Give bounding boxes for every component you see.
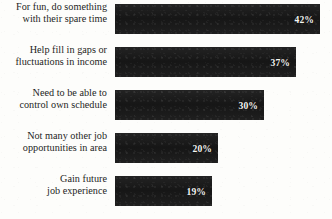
- category-label: Not many other job opportunities in area: [0, 130, 107, 155]
- bar[interactable]: 19%: [115, 176, 212, 206]
- bar-value-label: 42%: [295, 14, 315, 25]
- bar-value-label: 20%: [193, 143, 213, 154]
- chart-row: Gain future job experience 19%: [0, 176, 332, 206]
- category-label-line1: Not many other job: [0, 130, 107, 142]
- bar[interactable]: 37%: [115, 47, 296, 77]
- category-label-line2: with their spare time: [0, 13, 107, 25]
- bar-value-label: 30%: [239, 100, 259, 111]
- category-label-line2: control own schedule: [0, 99, 107, 111]
- category-label-line1: Gain future: [0, 173, 107, 185]
- category-label-line2: opportunities in area: [0, 142, 107, 154]
- bar-track: 30%: [115, 90, 264, 120]
- category-label: For fun, do something with their spare t…: [0, 1, 107, 26]
- bar[interactable]: 42%: [115, 4, 320, 34]
- bar-track: 19%: [115, 176, 212, 206]
- category-label-line1: Help fill in gaps or: [0, 44, 107, 56]
- category-label: Help fill in gaps or fluctuations in inc…: [0, 44, 107, 69]
- category-label-line1: For fun, do something: [0, 1, 107, 13]
- category-label-line1: Need to be able to: [0, 87, 107, 99]
- bar-value-label: 19%: [187, 186, 207, 197]
- category-label: Need to be able to control own schedule: [0, 87, 107, 112]
- bar-value-label: 37%: [271, 57, 291, 68]
- category-label: Gain future job experience: [0, 173, 107, 198]
- chart-row: Need to be able to control own schedule …: [0, 90, 332, 120]
- chart-row: Help fill in gaps or fluctuations in inc…: [0, 47, 332, 77]
- bar-track: 20%: [115, 133, 218, 163]
- chart-row: Not many other job opportunities in area…: [0, 133, 332, 163]
- bar[interactable]: 30%: [115, 90, 264, 120]
- bar-track: 37%: [115, 47, 296, 77]
- bar-track: 42%: [115, 4, 320, 34]
- bar[interactable]: 20%: [115, 133, 218, 163]
- chart-row: For fun, do something with their spare t…: [0, 4, 332, 34]
- category-label-line2: fluctuations in income: [0, 56, 107, 68]
- category-label-line2: job experience: [0, 185, 107, 197]
- horizontal-bar-chart: For fun, do something with their spare t…: [0, 0, 332, 219]
